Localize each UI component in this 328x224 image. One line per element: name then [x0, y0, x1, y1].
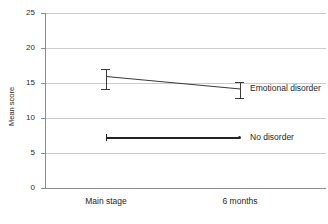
y-tick-mark-10 [41, 118, 45, 119]
marker-no-disorder-6-months [238, 136, 241, 139]
y-tick-mark-15 [41, 83, 45, 84]
y-tick-label-20: 20 [9, 44, 35, 52]
y-axis-label: Mean score [8, 87, 16, 126]
chart-container: 25 20 15 10 5 0 Mean score Emotional dis… [0, 0, 328, 224]
error-bar-cap-lower-emotional-main-stage [101, 89, 110, 90]
marker-no-disorder-main-stage [106, 134, 107, 141]
gridline-5 [45, 153, 326, 154]
x-tick-label-main-stage: Main stage [71, 196, 141, 206]
error-bar-cap-lower-emotional-6-months [235, 98, 244, 99]
plot-area: 25 20 15 10 5 0 Mean score Emotional dis… [0, 0, 328, 224]
error-bar-cap-emotional-6-months [235, 82, 244, 83]
y-tick-mark-0 [41, 188, 45, 189]
series-label-emotional-disorder: Emotional disorder [250, 83, 321, 93]
gridline-10 [45, 118, 326, 119]
y-tick-mark-25 [41, 13, 45, 14]
y-tick-label-15: 15 [9, 79, 35, 87]
series-line-no-disorder [106, 137, 240, 139]
gridline-25 [45, 13, 326, 14]
error-bar-emotional-main-stage [106, 69, 107, 90]
y-axis [45, 13, 46, 189]
y-tick-label-0: 0 [9, 184, 35, 192]
gridline-20 [45, 48, 326, 49]
y-tick-label-25: 25 [9, 9, 35, 17]
error-bar-cap-emotional-main-stage [101, 69, 110, 70]
y-tick-mark-20 [41, 48, 45, 49]
y-tick-label-5: 5 [9, 149, 35, 157]
x-axis [45, 188, 326, 189]
error-bar-emotional-6-months [240, 82, 241, 99]
x-tick-label-6-months: 6 months [205, 196, 275, 206]
series-label-no-disorder: No disorder [250, 132, 294, 142]
y-tick-mark-5 [41, 153, 45, 154]
